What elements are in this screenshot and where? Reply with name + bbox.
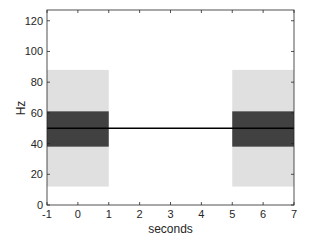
x-tick-label: 4 bbox=[198, 208, 204, 220]
x-tick-label: 5 bbox=[229, 208, 235, 220]
x-tick-label: 3 bbox=[167, 208, 173, 220]
x-tick-label: 1 bbox=[106, 208, 112, 220]
x-tick-label: 0 bbox=[75, 208, 81, 220]
y-tick-label: 60 bbox=[31, 107, 43, 119]
x-tick-label: -1 bbox=[42, 208, 52, 220]
y-tick-label: 100 bbox=[25, 45, 43, 57]
spectrogram-band-chart: -101234567 020406080100120 seconds Hz bbox=[0, 0, 312, 242]
y-tick-label: 20 bbox=[31, 168, 43, 180]
x-axis-label: seconds bbox=[148, 222, 193, 236]
inner-band-right bbox=[232, 111, 294, 146]
x-tick-label: 7 bbox=[291, 208, 297, 220]
y-axis-label: Hz bbox=[14, 101, 28, 116]
y-tick-label: 120 bbox=[25, 15, 43, 27]
inner-band-left bbox=[47, 111, 109, 146]
x-tick-label: 6 bbox=[260, 208, 266, 220]
y-tick-label: 40 bbox=[31, 138, 43, 150]
x-tick-label: 2 bbox=[137, 208, 143, 220]
y-tick-label: 80 bbox=[31, 76, 43, 88]
y-tick-label: 0 bbox=[37, 199, 43, 211]
